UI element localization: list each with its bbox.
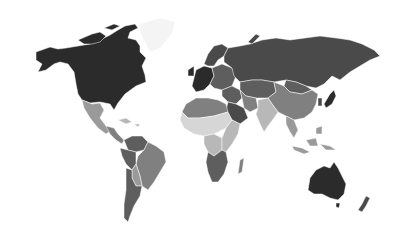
region-greenland[interactable]: Greenland (140, 18, 175, 52)
region-new-zealand[interactable]: New Zealand (358, 196, 370, 212)
region-western-europe[interactable]: Western Europe (188, 66, 214, 92)
region-tasmania[interactable]: Australia (336, 203, 340, 208)
region-russia[interactable]: Russia (224, 36, 380, 88)
region-madagascar[interactable]: Madagascar (238, 158, 244, 174)
region-indonesia[interactable]: Indonesia (292, 126, 336, 154)
region-korea[interactable]: Korea (318, 98, 322, 106)
world-choropleth-map: North America (Canada, USA) North Americ… (0, 0, 408, 251)
region-australia[interactable]: Australia (308, 162, 346, 200)
region-middle-east[interactable]: Middle East (222, 86, 242, 104)
region-central-america[interactable]: Central America (106, 126, 124, 144)
region-japan[interactable]: Japan (324, 90, 336, 108)
region-southern-africa[interactable]: Southern Africa (206, 150, 228, 182)
region-caribbean[interactable]: Caribbean (118, 118, 140, 127)
region-peru-ecuador[interactable]: Peru / Ecuador (120, 148, 136, 170)
